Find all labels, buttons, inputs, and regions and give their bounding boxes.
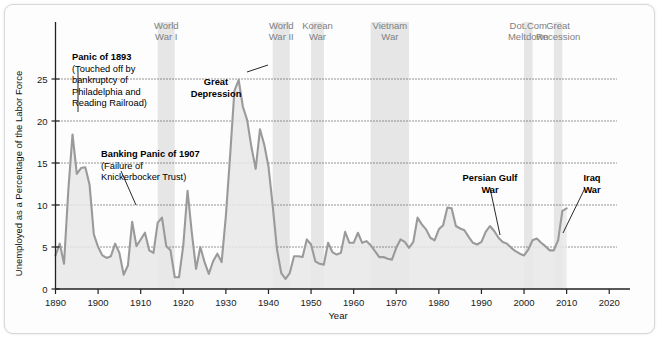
x-tick-label-2010: 2010 (556, 297, 577, 308)
unemployment-chart: WorldWar IWorldWar IIKoreanWarVietnamWar… (0, 0, 663, 343)
y-tick-label-25: 25 (37, 74, 48, 85)
annotation-panic-1893-line-0: Panic of 1893 (72, 52, 131, 62)
annotation-persian-gulf-war-line-0: Persian Gulf (463, 173, 519, 183)
event-band-label-0: World (154, 20, 179, 31)
y-axis-title: Unemployed as a Percentage of the Labor … (13, 71, 24, 276)
x-tick-label-1990: 1990 (471, 297, 492, 308)
annotation-banking-panic-1907-line-0: Banking Panic of 1907 (101, 149, 200, 159)
event-band-label2-3: War (381, 31, 398, 42)
annotation-iraq-war-line-0: Iraq (583, 173, 600, 183)
x-tick-label-1900: 1900 (88, 297, 109, 308)
x-tick-label-1910: 1910 (130, 297, 151, 308)
x-tick-label-1940: 1940 (258, 297, 279, 308)
x-axis-title: Year (328, 310, 347, 321)
x-tick-label-1930: 1930 (215, 297, 236, 308)
annotation-great-depression-line-0: Great (204, 77, 228, 87)
event-band-label-1: World (269, 20, 294, 31)
annotation-great-depression-line-1: Depression (191, 89, 242, 99)
event-band-label2-2: War (309, 31, 326, 42)
event-band-label-2: Korean (302, 20, 333, 31)
annotation-panic-1893-line-1: (Touched off by (72, 64, 136, 74)
x-tick-label-2000: 2000 (513, 297, 534, 308)
x-tick-label-2020: 2020 (599, 297, 620, 308)
annotation-banking-panic-1907-line-2: Knickerbocker Trust) (101, 172, 186, 182)
x-tick-label-1890: 1890 (45, 297, 66, 308)
annotation-panic-1893-line-4: Reading Railroad) (72, 98, 147, 108)
y-tick-label-10: 10 (37, 200, 48, 211)
x-tick-label-1950: 1950 (300, 297, 321, 308)
y-tick-label-5: 5 (42, 242, 47, 253)
y-tick-label-0: 0 (42, 284, 47, 295)
y-tick-label-15: 15 (37, 158, 48, 169)
annotation-panic-1893-line-3: Philadelphia and (72, 87, 141, 97)
x-tick-label-1920: 1920 (173, 297, 194, 308)
event-band-label2-1: War II (269, 31, 294, 42)
x-tick-label-1970: 1970 (386, 297, 407, 308)
y-tick-label-20: 20 (37, 116, 48, 127)
event-band-label-3: Vietnam (373, 20, 408, 31)
x-tick-label-1960: 1960 (343, 297, 364, 308)
annotation-banking-panic-1907-line-1: (Failure of (101, 161, 143, 171)
event-band-label-5: Great (546, 20, 570, 31)
event-band-label2-0: War I (155, 31, 177, 42)
event-band-label-4: Dot.Com (510, 20, 548, 31)
leader-depression (247, 65, 268, 72)
annotation-iraq-war-line-1: War (583, 185, 601, 195)
event-band-label2-5: Recession (536, 31, 580, 42)
annotation-panic-1893-line-2: bankruptcy of (72, 75, 128, 85)
chart-stage: WorldWar IWorldWar IIKoreanWarVietnamWar… (0, 0, 663, 343)
x-tick-label-1980: 1980 (428, 297, 449, 308)
